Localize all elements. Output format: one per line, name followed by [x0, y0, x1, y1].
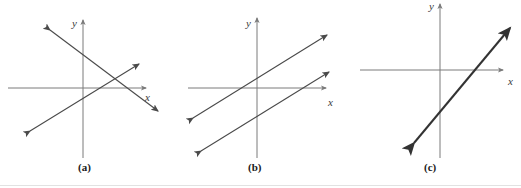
panel-b-y-axis-label: y: [246, 18, 251, 29]
panel-b-caption: (b): [248, 162, 261, 173]
panel-b-graph: [180, 0, 355, 188]
panel-c-caption: (c): [424, 162, 436, 173]
panel-a-line-negative-slope: [50, 30, 158, 111]
panel-b-data-lines: [193, 35, 329, 151]
panel-a-data-lines: [30, 30, 158, 131]
panel-c-graph: [355, 0, 521, 188]
panel-b-x-axis-label: x: [328, 97, 333, 108]
panel-c-axes: [360, 4, 503, 158]
panel-b-axes: [188, 18, 326, 158]
panel-a-x-axis-label: x: [145, 92, 150, 103]
three-panel-line-graph-figure: y x (a) y x: [0, 0, 521, 188]
panel-b-line-upper: [193, 35, 327, 118]
panel-c-coincident-line: [414, 28, 510, 143]
panel-c-data-lines: [414, 28, 510, 143]
panel-b-line-lower: [201, 72, 329, 151]
panel-c: y x (c): [355, 0, 521, 188]
panel-c-x-axis-label: x: [508, 76, 513, 87]
panel-a-line-positive-slope: [30, 64, 139, 131]
panel-b: y x (b): [180, 0, 355, 188]
panel-a: y x (a): [0, 0, 180, 188]
panel-a-y-axis-label: y: [72, 18, 77, 29]
panel-a-axes: [8, 20, 146, 158]
bottom-rule: [0, 185, 521, 186]
panel-a-caption: (a): [78, 162, 91, 173]
panel-a-graph: [0, 0, 180, 188]
panel-c-y-axis-label: y: [429, 1, 434, 12]
